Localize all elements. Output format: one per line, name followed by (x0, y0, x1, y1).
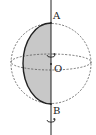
point-b-dot (50, 103, 52, 105)
label-b: B (53, 105, 60, 116)
label-a: A (52, 10, 61, 21)
shaded-half-disc (23, 23, 51, 104)
point-a-dot (50, 22, 52, 24)
sphere-rotation-diagram: A O B (0, 0, 96, 135)
point-o-dot (50, 63, 52, 65)
label-o: O (54, 63, 62, 74)
